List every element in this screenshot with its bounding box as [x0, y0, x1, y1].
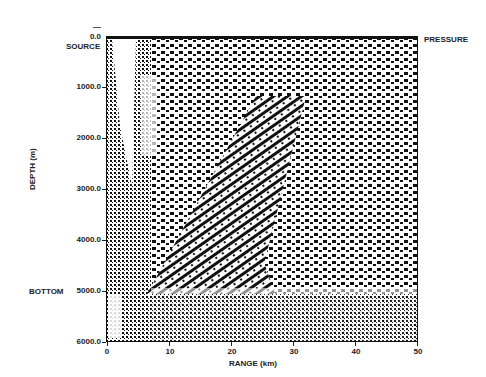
y-tick-4000: 4000.0 — [41, 235, 101, 244]
x-tick-0: 0 — [92, 347, 122, 356]
y-axis-title: DEPTH (m) — [28, 148, 37, 190]
x-tickmark — [355, 342, 356, 346]
y-tick-6000: 6000.0 — [41, 337, 101, 346]
y-tick-2000: 2000.0 — [41, 133, 101, 142]
x-tickmark — [417, 342, 418, 346]
y-tick-3000: 3000.0 — [41, 184, 101, 193]
source-label: SOURCE — [66, 42, 100, 51]
x-tickmark — [293, 342, 294, 346]
x-tick-30: 30 — [279, 347, 309, 356]
y-tickmark — [102, 342, 106, 343]
x-tickmark — [169, 342, 170, 346]
top-dash-mark — [93, 27, 101, 28]
y-tick-1000: 1000.0 — [41, 82, 101, 91]
x-tick-20: 20 — [217, 347, 247, 356]
x-tick-10: 10 — [155, 347, 185, 356]
x-axis-title: RANGE (km) — [229, 359, 277, 368]
x-tickmark — [231, 342, 232, 346]
x-tick-50: 50 — [403, 347, 433, 356]
x-tick-40: 40 — [341, 347, 371, 356]
x-tickmark — [107, 342, 108, 346]
bottom-label: BOTTOM — [29, 287, 64, 296]
pressure-field-plot — [106, 36, 418, 342]
pressure-label: PRESSURE — [424, 35, 468, 44]
y-tick-0: 0.0 — [41, 32, 101, 41]
